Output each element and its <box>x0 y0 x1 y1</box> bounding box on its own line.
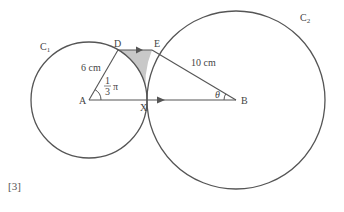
label-eb-length: 10 cm <box>191 57 216 68</box>
label-c2: C2 <box>300 12 311 25</box>
label-angle-b: θ <box>215 89 220 100</box>
label-angle-a-num: 1 <box>105 75 110 86</box>
segment-ad <box>89 50 118 100</box>
label-b: B <box>241 95 248 106</box>
label-ad-length: 6 cm <box>81 62 101 73</box>
label-c1: C1 <box>40 41 51 54</box>
label-d: D <box>114 38 121 49</box>
label-angle-a-den: 3 <box>105 86 110 97</box>
marks-label: [3] <box>8 180 21 192</box>
label-a: A <box>79 95 87 106</box>
angle-arc-a <box>95 90 101 100</box>
label-angle-a-pi: π <box>113 81 118 92</box>
label-e: E <box>154 38 160 49</box>
label-x: X <box>140 102 148 113</box>
arrow-ab <box>157 97 165 104</box>
geometry-diagram: C1 C2 D E A X B 6 cm 10 cm 1 3 π θ <box>0 0 344 212</box>
angle-arc-b <box>224 94 226 100</box>
